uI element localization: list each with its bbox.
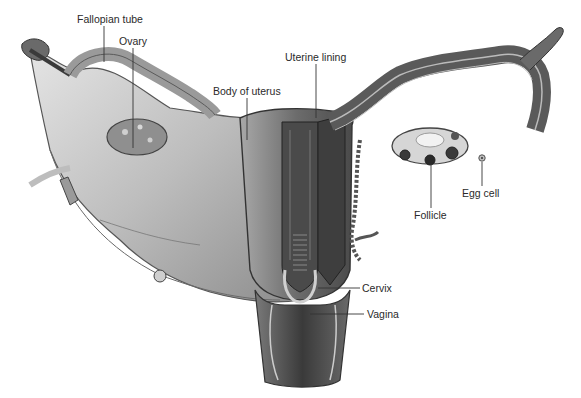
label-follicle: Follicle [414, 209, 447, 221]
uterine-cavity [282, 122, 318, 292]
follicle-2 [425, 155, 435, 165]
label-egg-cell: Egg cell [462, 187, 499, 199]
ovary-left [107, 119, 167, 155]
follicle-3 [446, 147, 458, 159]
label-fallopian-tube: Fallopian tube [77, 13, 143, 25]
label-uterine-lining: Uterine lining [285, 51, 346, 63]
label-body-of-uterus: Body of uterus [213, 85, 281, 97]
label-cervix: Cervix [362, 282, 392, 294]
label-vagina: Vagina [367, 308, 399, 320]
anatomy-diagram: Fallopian tube Ovary Body of uterus Uter… [0, 0, 581, 398]
follicle-1 [400, 150, 410, 160]
fallopian-tube-right [330, 54, 542, 130]
label-ovary: Ovary [119, 35, 147, 47]
